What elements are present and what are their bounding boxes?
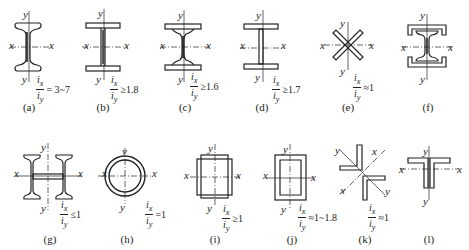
ratio-j: ixiy ≈1~1.8 <box>298 203 337 233</box>
axis-label-x: x <box>372 146 377 157</box>
axis-label-y: y <box>96 74 101 85</box>
axis-label-y: y <box>178 74 183 85</box>
ratio-g: ixiy ≤1 <box>60 200 81 230</box>
caption-j: (j) <box>277 234 307 245</box>
ratio-h: ixiy =1 <box>145 200 166 230</box>
section-j-shape <box>266 144 314 208</box>
caption-e: (e) <box>333 102 363 113</box>
section-e-shape <box>324 22 372 70</box>
section-d-shape <box>240 10 285 82</box>
axis-label-y: y <box>420 10 425 21</box>
axis-label-y: y <box>423 196 428 207</box>
ratio-d: ixiy ≥1.7 <box>272 75 300 105</box>
axis-label-x: x <box>369 40 374 51</box>
section-l-shape <box>400 146 458 200</box>
axis-label-y: y <box>23 9 28 20</box>
axis-label-y: y <box>256 10 261 21</box>
axis-label-x: x <box>457 164 462 175</box>
axis-label-y: y <box>41 203 46 214</box>
section-i-shape <box>190 144 240 206</box>
caption-b: (b) <box>88 102 118 113</box>
axis-label-y: y <box>385 186 390 197</box>
axis-label-x: x <box>78 168 83 179</box>
axis-label-y: y <box>283 144 288 155</box>
caption-d: (d) <box>247 102 277 113</box>
caption-f: (f) <box>413 102 443 113</box>
axis-label-x: x <box>184 170 189 181</box>
axis-label-x: x <box>236 170 241 181</box>
axis-label-x: x <box>340 185 345 196</box>
axis-label-x: x <box>448 42 453 53</box>
ratio-i: ixiy ≥1 <box>222 204 243 234</box>
caption-h: (h) <box>112 234 142 245</box>
section-a-shape <box>10 11 54 82</box>
caption-c: (c) <box>170 102 200 113</box>
axis-label-x: x <box>281 40 286 51</box>
axis-label-y: y <box>340 18 345 29</box>
axis-label-y: y <box>423 146 428 157</box>
axis-label-x: x <box>84 40 89 51</box>
axis-label-x: x <box>320 40 325 51</box>
axis-label-x: x <box>399 164 404 175</box>
axis-label-x: x <box>124 40 129 51</box>
caption-g: (g) <box>35 234 65 245</box>
axis-label-x: x <box>102 168 107 179</box>
axis-label-x: x <box>240 40 245 51</box>
caption-l: (l) <box>414 234 444 245</box>
axis-label-y: y <box>120 202 125 213</box>
ratio-b: ixiy ≥1.8 <box>110 75 138 105</box>
axis-label-x: x <box>160 40 165 51</box>
axis-label-y: y <box>281 204 286 215</box>
ratio-c: ixiy ≥1.6 <box>190 72 218 102</box>
axis-label-y: y <box>122 146 127 157</box>
axis-label-x: x <box>401 42 406 53</box>
axis-label-y: y <box>208 143 213 154</box>
ratio-e: ixiy ≈1 <box>353 73 374 103</box>
caption-i: (i) <box>200 234 230 245</box>
axis-label-y: y <box>98 8 103 19</box>
section-k-shape <box>340 145 385 200</box>
section-f-shape <box>402 14 452 80</box>
axis-label-y: y <box>255 72 260 83</box>
axis-label-x: x <box>311 172 316 183</box>
axis-label-y: y <box>340 66 345 77</box>
axis-label-x: x <box>152 168 157 179</box>
axis-label-y: y <box>178 10 183 21</box>
axis-label-x: x <box>9 40 14 51</box>
axis-label-x: x <box>263 170 268 181</box>
caption-k: (k) <box>350 234 380 245</box>
axis-label-x: x <box>49 40 54 51</box>
ratio-k: ixiy ≈1 <box>368 203 389 233</box>
axis-label-y: y <box>420 74 425 85</box>
axis-label-y: y <box>207 203 212 214</box>
axis-label-y: y <box>41 142 46 153</box>
axis-label-x: x <box>206 40 211 51</box>
caption-a: (a) <box>14 102 44 113</box>
axis-label-y: y <box>335 145 340 156</box>
axis-label-y: y <box>22 74 27 85</box>
axis-label-x: x <box>14 168 19 179</box>
ratio-a: ixiy = 3~7 <box>36 75 70 105</box>
